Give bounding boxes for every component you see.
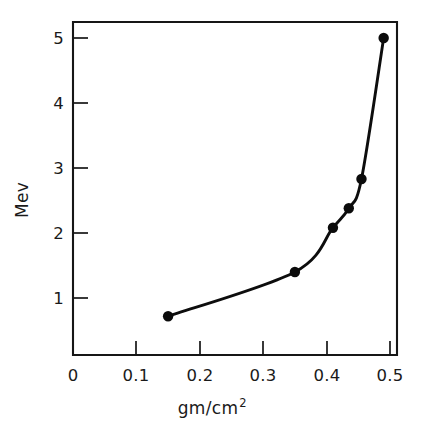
y-tick-label-1: 1 bbox=[53, 289, 64, 308]
y-axis-ticks bbox=[73, 38, 88, 298]
x-tick-labels: 0 0.1 0.2 0.3 0.4 0.5 bbox=[68, 366, 404, 385]
x-tick-label-0.2: 0.2 bbox=[187, 366, 214, 385]
x-axis-ticks bbox=[136, 341, 390, 355]
x-axis-title-exponent: 2 bbox=[239, 396, 246, 410]
data-point bbox=[356, 174, 366, 184]
data-markers bbox=[163, 33, 389, 322]
y-axis-title: Mev bbox=[12, 182, 32, 218]
x-tick-label-0.3: 0.3 bbox=[250, 366, 277, 385]
x-tick-label-0.4: 0.4 bbox=[314, 366, 341, 385]
x-tick-label-0.5: 0.5 bbox=[377, 366, 404, 385]
chart-figure: 1 2 3 4 5 0 0.1 0.2 0.3 0.4 0.5 Mev gm/c… bbox=[0, 0, 430, 432]
plot-frame bbox=[73, 22, 397, 355]
x-tick-label-0.1: 0.1 bbox=[123, 366, 150, 385]
x-tick-label-0: 0 bbox=[68, 366, 79, 385]
y-tick-label-3: 3 bbox=[53, 159, 64, 178]
data-curve bbox=[168, 38, 384, 316]
data-point bbox=[344, 203, 354, 213]
y-tick-labels: 1 2 3 4 5 bbox=[53, 29, 64, 308]
y-tick-label-5: 5 bbox=[53, 29, 64, 48]
chart-canvas: 1 2 3 4 5 0 0.1 0.2 0.3 0.4 0.5 Mev gm/c… bbox=[0, 0, 430, 432]
data-point bbox=[163, 311, 173, 321]
y-tick-label-4: 4 bbox=[53, 94, 64, 113]
x-axis-title-base: gm/cm bbox=[178, 398, 239, 418]
data-point bbox=[290, 267, 300, 277]
data-point bbox=[328, 223, 338, 233]
data-point bbox=[378, 33, 388, 43]
x-axis-title: gm/cm 2 bbox=[178, 396, 247, 418]
y-tick-label-2: 2 bbox=[53, 224, 64, 243]
axes-box bbox=[73, 22, 397, 355]
